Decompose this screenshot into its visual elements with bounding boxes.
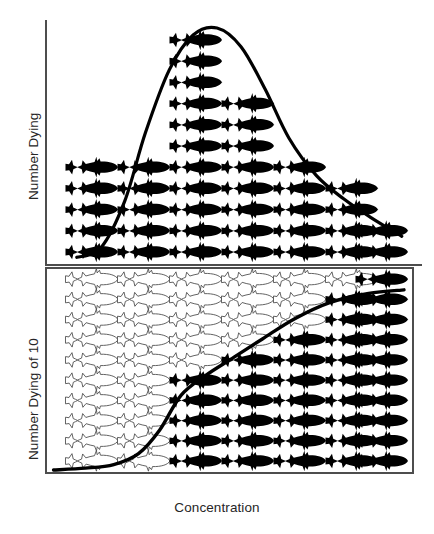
fish-glyph-dead [221, 450, 274, 471]
fish-glyph-dead [169, 114, 222, 135]
fish-glyph-dead [169, 241, 222, 262]
fish-glyph-alive [117, 349, 170, 370]
fish-glyph-dead [65, 157, 118, 178]
fish-glyph-dead [355, 349, 408, 370]
fish-glyph-dead [273, 410, 326, 431]
fish-glyph-alive [117, 289, 170, 310]
fish-glyph-dead [273, 241, 326, 262]
fish-glyph-dead [273, 329, 326, 350]
fish-glyph-dead [221, 430, 274, 451]
fish-glyph-dead [355, 329, 408, 350]
fish-glyph-dead [117, 241, 170, 262]
fish-glyph-alive [65, 269, 118, 290]
fish-glyph-dead [221, 114, 274, 135]
fish-glyph-dead [65, 178, 118, 199]
fish-glyph-dead [273, 430, 326, 451]
fish-glyph-alive [221, 289, 274, 310]
dose-response-figure: Number Dying Number Dying of 10 Concentr… [0, 0, 434, 534]
top-panel-fish-grid [65, 29, 408, 262]
fish-glyph-dead [273, 199, 326, 220]
fish-glyph-dead [169, 199, 222, 220]
fish-glyph-dead [355, 430, 408, 451]
fish-glyph-dead [169, 178, 222, 199]
fish-glyph-dead [355, 410, 408, 431]
fish-glyph-alive [65, 370, 118, 391]
fish-glyph-alive [169, 349, 222, 370]
bottom-panel [46, 268, 413, 473]
fish-glyph-dead [65, 241, 118, 262]
fish-glyph-dead [355, 241, 408, 262]
fish-glyph-alive [169, 309, 222, 330]
fish-glyph-dead [221, 199, 274, 220]
bottom-panel-fish-grid [65, 269, 408, 472]
fish-glyph-dead [169, 93, 222, 114]
fish-glyph-dead [221, 93, 274, 114]
fish-glyph-alive [65, 329, 118, 350]
fish-glyph-dead [355, 309, 408, 330]
fish-glyph-dead [221, 241, 274, 262]
fish-glyph-alive [117, 269, 170, 290]
fish-glyph-dead [169, 370, 222, 391]
fish-glyph-dead [355, 450, 408, 471]
fish-glyph-dead [169, 157, 222, 178]
x-axis-label: Concentration [0, 500, 434, 515]
fish-glyph-dead [169, 72, 222, 93]
fish-glyph-dead [169, 430, 222, 451]
fish-glyph-dead [221, 390, 274, 411]
fish-glyph-alive [221, 269, 274, 290]
fish-glyph-dead [273, 370, 326, 391]
fish-glyph-dead [273, 178, 326, 199]
fish-glyph-alive [169, 329, 222, 350]
fish-glyph-dead [355, 370, 408, 391]
fish-glyph-alive [273, 269, 326, 290]
fish-glyph-alive [65, 430, 118, 451]
fish-glyph-dead [169, 135, 222, 156]
fish-glyph-dead [221, 157, 274, 178]
fish-glyph-dead [355, 269, 408, 290]
fish-glyph-dead [117, 220, 170, 241]
fish-glyph-dead [273, 390, 326, 411]
fish-glyph-alive [169, 269, 222, 290]
fish-glyph-dead [65, 199, 118, 220]
fish-glyph-alive [117, 390, 170, 411]
fish-glyph-dead [117, 157, 170, 178]
fish-glyph-dead [273, 349, 326, 370]
fish-glyph-alive [65, 309, 118, 330]
fish-glyph-alive [221, 309, 274, 330]
fish-glyph-alive [117, 370, 170, 391]
fish-glyph-dead [169, 410, 222, 431]
fish-glyph-dead [355, 390, 408, 411]
top-panel [45, 20, 422, 265]
fish-glyph-dead [273, 220, 326, 241]
y-axis-label-top: Number Dying [26, 113, 41, 200]
fish-glyph-dead [221, 220, 274, 241]
fish-glyph-dead [221, 135, 274, 156]
fish-glyph-alive [169, 289, 222, 310]
fish-glyph-dead [221, 410, 274, 431]
fish-glyph-dead [273, 450, 326, 471]
fish-glyph-alive [117, 329, 170, 350]
fish-glyph-dead [169, 450, 222, 471]
fish-glyph-dead [273, 157, 326, 178]
fish-glyph-alive [65, 349, 118, 370]
fish-glyph-dead [169, 220, 222, 241]
fish-glyph-alive [65, 410, 118, 431]
y-axis-label-bottom: Number Dying of 10 [26, 338, 41, 460]
fish-glyph-alive [117, 309, 170, 330]
fish-glyph-alive [65, 390, 118, 411]
fish-glyph-dead [221, 178, 274, 199]
fish-glyph-alive [65, 289, 118, 310]
fish-glyph-dead [325, 178, 378, 199]
fish-glyph-dead [221, 370, 274, 391]
plot-canvas [0, 0, 434, 534]
